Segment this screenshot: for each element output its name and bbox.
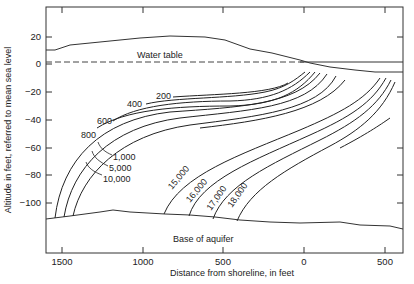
x-tick-1000: 1000 <box>132 256 153 267</box>
x-tick-0: 0 <box>301 256 306 267</box>
bottom-ticks <box>62 247 385 253</box>
isochlor-10000 <box>73 76 336 216</box>
label-17000: 17,000 <box>204 184 228 212</box>
x-tick-labels: 1500 1000 500 0 500 <box>51 256 393 267</box>
label-200: 200 <box>156 91 171 101</box>
upper-isochlor-curves <box>55 72 345 218</box>
land-surface-line <box>46 36 403 72</box>
y-tick-labels: 20 0 −20 −40 −60 −80 −100 <box>20 31 41 208</box>
isochlor-cross-section-diagram: 20 0 −20 −40 −60 −80 −100 1500 1000 500 … <box>0 0 414 284</box>
lower-isochlor-curves <box>164 78 395 221</box>
y-tick-neg100: −100 <box>20 197 41 208</box>
y-tick-neg80: −80 <box>25 169 41 180</box>
y-tick-neg20: −20 <box>25 86 41 97</box>
label-10000: 10,000 <box>103 174 131 184</box>
y-axis-label: Altitude in feet, referred to mean sea l… <box>3 47 13 214</box>
base-of-aquifer-label: Base of aquifer <box>173 234 234 244</box>
y-tick-20: 20 <box>30 31 41 42</box>
y-tick-0: 0 <box>36 58 41 69</box>
y-tick-neg60: −60 <box>25 142 41 153</box>
label-15000: 15,000 <box>166 164 191 192</box>
y-tick-neg40: −40 <box>25 114 41 125</box>
label-1000: 1,000 <box>113 152 136 162</box>
plot-frame <box>46 7 403 253</box>
isochlor-600 <box>113 72 310 121</box>
label-400: 400 <box>127 99 142 109</box>
label-5000: 5,000 <box>109 163 132 173</box>
top-ticks <box>62 7 385 13</box>
x-tick-500: 500 <box>215 256 231 267</box>
x-tick-500-seaward: 500 <box>377 256 393 267</box>
water-table-label: Water table <box>137 50 183 60</box>
x-axis-label: Distance from shoreline, in feet <box>170 268 295 278</box>
label-800: 800 <box>81 130 96 140</box>
label-600: 600 <box>97 116 112 126</box>
upper-isochlor-labels: 200 400 600 800 1,000 5,000 10,000 <box>81 91 171 184</box>
base-of-aquifer-line <box>46 210 403 229</box>
x-tick-1500: 1500 <box>51 256 72 267</box>
